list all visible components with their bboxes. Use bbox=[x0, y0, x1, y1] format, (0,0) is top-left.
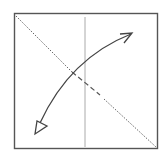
origami-diagram bbox=[0, 0, 165, 164]
